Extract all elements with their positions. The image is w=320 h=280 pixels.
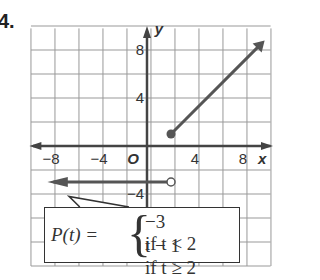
tick-label: 8 (239, 150, 247, 167)
tick-label: O (127, 150, 139, 167)
tick-label: y (154, 20, 164, 37)
tick-label: 8 (136, 41, 144, 58)
case-2: t − 1if t ≥ 2 (145, 235, 239, 279)
tick-label: 4 (136, 89, 144, 106)
arrow-left-icon (47, 177, 67, 187)
tick-label: −8 (42, 150, 59, 167)
closed-dot (167, 130, 176, 139)
y-arrow-icon (143, 26, 151, 38)
tick-labels: −8−44884−4Oxy (42, 20, 267, 202)
graph-lines (47, 40, 264, 207)
tick-label: x (257, 150, 267, 167)
open-dot (167, 178, 175, 186)
tick-label: −4 (90, 150, 107, 167)
tick-label: −4 (127, 185, 144, 202)
callout-pointer (69, 196, 129, 207)
ray-linear (171, 46, 259, 134)
function-lhs: P(t) = (51, 224, 98, 246)
function-definition-box: P(t) = { −3if t < 2 t − 1if t ≥ 2 (44, 207, 240, 263)
tick-label: 4 (191, 150, 199, 167)
